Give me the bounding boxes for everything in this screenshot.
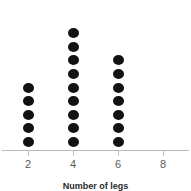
dot-column-2 [16, 83, 40, 150]
dot [113, 55, 124, 65]
x-axis-tick-6 [118, 151, 119, 156]
dot [68, 83, 79, 93]
dot-column-6 [106, 55, 130, 150]
dot [23, 123, 34, 133]
dot [113, 123, 124, 133]
x-axis-tick-label-4: 4 [58, 158, 88, 170]
x-axis-tick-8 [163, 151, 164, 156]
dot-plot-chart: 2 4 6 8 Number of legs [0, 0, 191, 191]
dot [113, 69, 124, 79]
dot [113, 137, 124, 147]
dot [68, 42, 79, 52]
x-axis-tick-2 [28, 151, 29, 156]
dot [68, 28, 79, 38]
dot [68, 55, 79, 65]
dot [23, 83, 34, 93]
dot [113, 110, 124, 120]
dot [23, 96, 34, 106]
x-axis-tick-label-6: 6 [103, 158, 133, 170]
dot [23, 137, 34, 147]
dot [68, 137, 79, 147]
x-axis-tick-label-2: 2 [13, 158, 43, 170]
dot [113, 83, 124, 93]
dot [68, 69, 79, 79]
x-axis-title: Number of legs [0, 181, 191, 191]
x-axis-tick-4 [73, 151, 74, 156]
plot-area [0, 0, 191, 150]
dot [68, 110, 79, 120]
dot [113, 96, 124, 106]
x-axis-line [2, 150, 189, 151]
dot [68, 123, 79, 133]
dot-column-4 [61, 28, 85, 150]
dot [23, 110, 34, 120]
dot [68, 96, 79, 106]
x-axis-tick-label-8: 8 [148, 158, 178, 170]
